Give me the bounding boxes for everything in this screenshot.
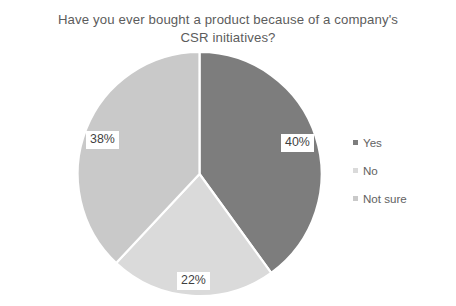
legend-item-yes[interactable]: Yes [353,128,449,156]
legend-label-yes: Yes [363,136,382,149]
legend-swatch-yes-icon [353,140,358,145]
data-label-yes: 40% [281,134,314,152]
legend-label-not-sure: Not sure [363,192,407,205]
data-label-no: 38% [86,131,119,149]
chart-legend: Yes No Not sure [353,128,449,212]
legend-label-no: No [363,164,378,177]
legend-swatch-not-sure-icon [353,196,358,201]
data-label-not-sure: 22% [177,272,210,290]
legend-item-not-sure[interactable]: Not sure [353,184,449,212]
pie-chart-figure: Have you ever bought a product because o… [0,0,456,306]
legend-item-no[interactable]: No [353,156,449,184]
legend-swatch-no-icon [353,168,358,173]
